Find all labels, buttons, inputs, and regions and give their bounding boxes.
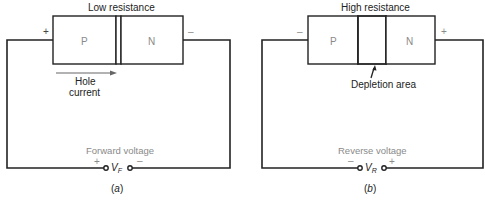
terminal-positive xyxy=(104,166,108,170)
source-subscript-f: F xyxy=(118,167,122,174)
caption-letter-a: a xyxy=(114,183,120,194)
depletion-region xyxy=(358,16,386,64)
right-terminal-sign-b: + xyxy=(441,27,447,37)
pn-junction-diagram xyxy=(0,0,485,201)
caption-a: (a) xyxy=(111,184,123,194)
terminal-negative xyxy=(128,166,132,170)
p-label-a: P xyxy=(81,37,88,47)
source-symbol-vr: VR xyxy=(365,163,377,174)
source-subscript-r: R xyxy=(372,167,377,174)
left-terminal-sign-a: + xyxy=(43,27,49,37)
terminal-negative xyxy=(358,166,362,170)
pointer-head-icon xyxy=(373,65,377,71)
arrow-head-icon xyxy=(110,71,117,76)
depletion-area-label: Depletion area xyxy=(351,80,416,90)
source-v: V xyxy=(111,162,118,173)
resistance-title-a: Low resistance xyxy=(88,3,155,13)
forward-voltage-label: Forward voltage xyxy=(86,146,154,156)
resistance-title-b: High resistance xyxy=(341,3,410,13)
source-minus-b: – xyxy=(348,156,354,166)
n-label-b: N xyxy=(406,37,413,47)
terminal-positive xyxy=(382,166,386,170)
p-label-b: P xyxy=(330,37,337,47)
source-minus-a: – xyxy=(137,156,143,166)
source-symbol-vf: VF xyxy=(111,163,122,174)
hole-current-label-line2: current xyxy=(69,88,100,98)
junction-strip xyxy=(116,16,121,64)
left-terminal-sign-b: – xyxy=(297,27,303,37)
source-plus-a: + xyxy=(94,157,100,167)
hole-current-label-line1: Hole xyxy=(75,77,96,87)
n-label-a: N xyxy=(148,37,155,47)
caption-b: (b) xyxy=(364,184,376,194)
caption-letter-b: b xyxy=(367,183,373,194)
right-terminal-sign-a: – xyxy=(188,27,194,37)
source-v: V xyxy=(365,162,372,173)
source-plus-b: + xyxy=(389,157,395,167)
